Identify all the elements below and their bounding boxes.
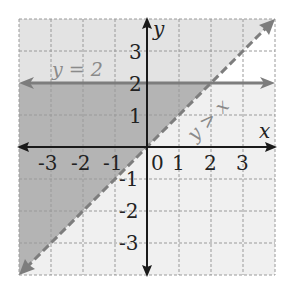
- y-tick-label: 2: [129, 72, 142, 96]
- y-axis-label: y: [152, 17, 165, 41]
- y-tick-label: 1: [129, 104, 142, 128]
- y-tick-label: -1: [119, 167, 138, 191]
- x-tick-label: -3: [38, 151, 57, 175]
- x-tick-label: -2: [71, 151, 90, 175]
- y-tick-label: 3: [129, 40, 142, 64]
- y-tick-label: -3: [119, 231, 138, 255]
- x-tick-label: 1: [172, 151, 185, 175]
- x-tick-label: 0: [151, 151, 164, 175]
- x-tick-label: 2: [204, 151, 217, 175]
- x-axis-label: x: [259, 119, 270, 143]
- y-tick-label: -2: [119, 199, 138, 223]
- label-y-equals-2: y = 2: [51, 58, 103, 80]
- inequality-graph: x y -3 -2 -1 0 1 2 3 3 2 1 -1 -2 -3 y = …: [0, 0, 293, 282]
- x-tick-label: 3: [236, 151, 249, 175]
